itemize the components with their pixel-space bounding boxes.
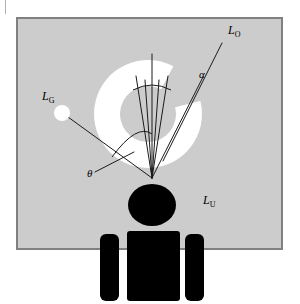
label-theta: θ (87, 167, 93, 179)
label-lu-subscript: U (210, 200, 216, 209)
observer-arm-right (185, 234, 204, 301)
diagram-canvas: LOαLGθLU (0, 0, 300, 304)
label-lg-subscript: G (49, 96, 55, 105)
observer-torso (127, 231, 180, 301)
observer-head (128, 184, 176, 226)
point-light-dot (54, 105, 70, 121)
label-lo-subscript: O (235, 30, 241, 39)
label-alpha: α (199, 68, 205, 80)
figure-root: LOαLGθLU (0, 0, 300, 304)
observer-arm-left (100, 234, 119, 301)
page-corner-rule (5, 0, 6, 14)
